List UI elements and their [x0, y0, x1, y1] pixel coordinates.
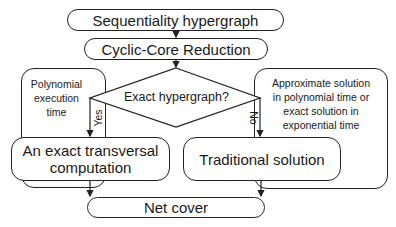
- exact-line-1: An exact transversal: [23, 142, 159, 159]
- yes-label: Yes: [92, 109, 104, 126]
- traditional-solution-node: Traditional solution: [183, 137, 341, 181]
- reduction-node: Cyclic-Core Reduction: [84, 38, 268, 60]
- decision-label: Exact hypergraph?: [124, 90, 229, 104]
- connectors: [0, 0, 396, 227]
- no-label: No: [248, 111, 260, 124]
- exact-line-2: computation: [50, 159, 132, 176]
- start-node: Sequentiality hypergraph: [67, 9, 284, 31]
- exact-transversal-node: An exact transversal computation: [11, 137, 170, 181]
- net-cover-node: Net cover: [87, 197, 265, 218]
